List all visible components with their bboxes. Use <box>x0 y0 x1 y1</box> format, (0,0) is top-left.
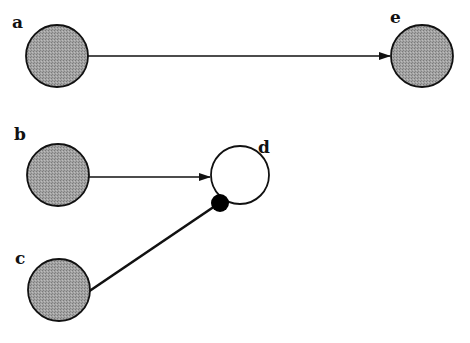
label-e: e <box>390 7 401 27</box>
node-e <box>391 25 453 87</box>
label-c: c <box>15 248 25 268</box>
inhibition-dot-icon <box>211 194 229 212</box>
network-diagram: a e b d c <box>0 0 470 343</box>
node-a <box>26 25 88 87</box>
label-d: d <box>258 137 270 157</box>
node-c <box>28 259 90 321</box>
edge-c-to-d <box>88 204 218 292</box>
label-b: b <box>14 124 26 144</box>
label-a: a <box>12 12 23 32</box>
node-b <box>27 144 89 206</box>
